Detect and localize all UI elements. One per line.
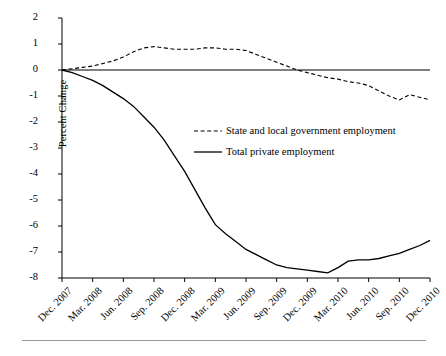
y-tick-label: -2 — [29, 116, 38, 127]
legend-label-state-local: State and local government employment — [226, 125, 396, 136]
y-tick-label: -4 — [29, 168, 38, 179]
y-tick-label: 1 — [33, 38, 38, 49]
legend-label-total-private: Total private employment — [226, 146, 334, 157]
y-tick-label: -7 — [29, 246, 38, 257]
y-tick-label: -6 — [29, 220, 38, 231]
y-tick-label: -3 — [29, 142, 38, 153]
y-tick-label: 0 — [33, 64, 38, 75]
y-tick-label: -5 — [29, 194, 38, 205]
y-tick-label: -8 — [29, 272, 38, 283]
y-tick-label: -1 — [29, 90, 38, 101]
y-tick-marks — [58, 18, 62, 278]
footnote-divider — [22, 340, 426, 341]
series-line-state-local — [62, 47, 430, 100]
x-tick-marks — [62, 278, 430, 282]
chart-container: Percent Change 210-1-2-3-4-5-6-7-8 Dec. … — [0, 0, 446, 356]
series-line-total-private — [62, 70, 430, 273]
y-tick-label: 2 — [33, 12, 38, 23]
line-chart-plot — [0, 0, 446, 356]
